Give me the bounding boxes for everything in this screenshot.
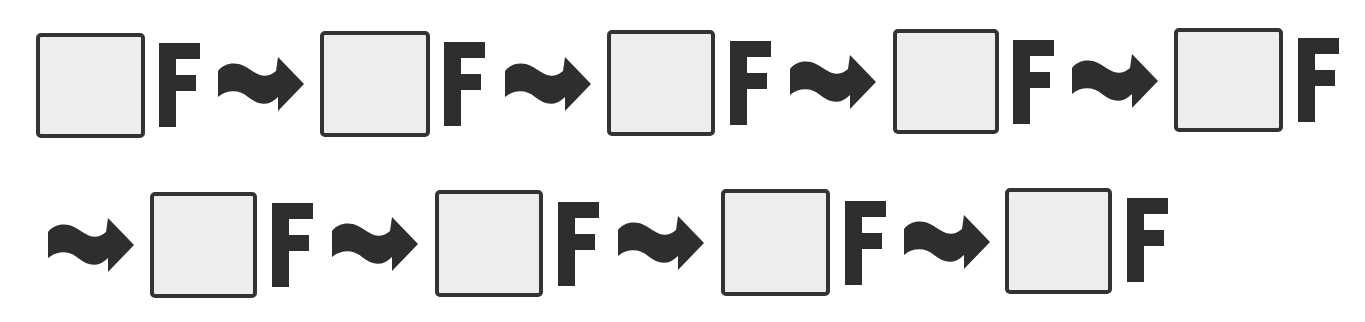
letter-f-icon xyxy=(558,202,600,286)
sequence-diagram xyxy=(0,0,1365,322)
wavy-arrow-icon xyxy=(218,57,304,111)
wavy-arrow-icon xyxy=(48,218,134,272)
letter-f-icon xyxy=(159,43,201,127)
letter-f-icon xyxy=(1013,40,1055,124)
blank-box-1[interactable] xyxy=(36,33,145,138)
letter-f-icon xyxy=(1298,38,1340,122)
blank-box-9[interactable] xyxy=(1005,188,1112,294)
letter-f-icon xyxy=(272,203,314,287)
wavy-arrow-icon xyxy=(904,215,990,269)
wavy-arrow-icon xyxy=(332,217,418,271)
blank-box-2[interactable] xyxy=(320,31,430,137)
wavy-arrow-icon xyxy=(618,216,704,270)
wavy-arrow-icon xyxy=(505,57,591,111)
blank-box-4[interactable] xyxy=(893,29,999,134)
letter-f-icon xyxy=(845,201,887,285)
blank-box-5[interactable] xyxy=(1174,28,1283,132)
blank-box-6[interactable] xyxy=(150,192,257,298)
letter-f-icon xyxy=(730,41,772,125)
blank-box-8[interactable] xyxy=(721,189,830,296)
blank-box-7[interactable] xyxy=(435,190,543,297)
wavy-arrow-icon xyxy=(1072,54,1158,108)
blank-box-3[interactable] xyxy=(607,30,715,136)
letter-f-icon xyxy=(444,42,486,126)
wavy-arrow-icon xyxy=(790,55,876,109)
letter-f-icon xyxy=(1127,198,1169,282)
